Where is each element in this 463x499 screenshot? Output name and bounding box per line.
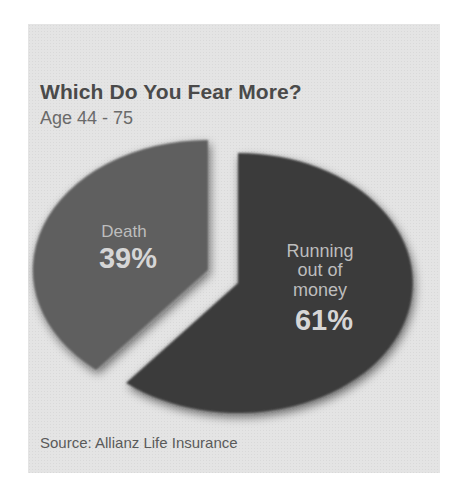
death-label: Death: [101, 222, 146, 241]
money-value: 61%: [295, 304, 353, 336]
source-note: Source: Allianz Life Insurance: [40, 434, 238, 451]
money-label-line3: money: [293, 280, 347, 300]
death-value: 39%: [99, 242, 157, 274]
chart-card: Which Do You Fear More? Age 44 - 75 Deat…: [28, 24, 440, 473]
money-label-line1: Running: [286, 241, 353, 261]
pie-chart: Death 39% Running out of money 61%: [28, 24, 440, 473]
money-label-line2: out of: [297, 260, 343, 280]
